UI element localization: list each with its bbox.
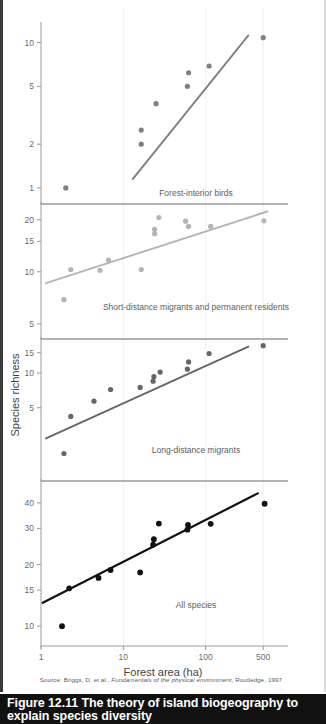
regression-line: [133, 35, 249, 179]
data-point: [151, 536, 157, 542]
data-point: [108, 567, 114, 573]
panel-all-species: 4030201510All species: [25, 479, 268, 648]
data-point: [186, 224, 191, 229]
species-area-scatter-chart: 10521Forest-interior birds2015105Short-d…: [0, 0, 326, 692]
y-tick-label: 30: [25, 523, 35, 533]
source-prefix: Source: Briggs, D. et al.,: [40, 676, 110, 683]
data-point: [151, 374, 156, 379]
data-point: [108, 387, 113, 392]
data-point: [139, 127, 144, 132]
panel-forest-interior-birds: 10521Forest-interior birds: [25, 22, 288, 204]
data-point: [185, 522, 191, 528]
y-tick-label: 2: [29, 139, 34, 149]
figure-caption-bar: Figure 12.11 The theory of island biogeo…: [0, 694, 326, 724]
data-point: [63, 185, 68, 190]
data-point: [138, 385, 143, 390]
y-tick-label: 10: [25, 621, 35, 631]
data-point: [156, 521, 162, 527]
y-tick-label: 40: [25, 498, 35, 508]
data-point: [185, 367, 190, 372]
panel-annotation-label: Forest-interior birds: [159, 188, 233, 198]
source-credit: Source: Briggs, D. et al., Fundamentals …: [0, 676, 322, 683]
y-tick-label: 10: [25, 38, 35, 48]
y-tick-label: 5: [29, 403, 34, 413]
data-point: [208, 521, 214, 527]
y-tick-label: 10: [25, 267, 35, 277]
data-point: [68, 414, 73, 419]
x-tick-label: 1: [39, 652, 44, 662]
data-point: [261, 343, 266, 348]
data-point: [91, 399, 96, 404]
y-tick-label: 5: [29, 81, 34, 91]
data-point: [186, 359, 191, 364]
y-tick-label: 1: [29, 183, 34, 193]
panel-short-distance-migrants-permanent-residents: 2015105Short-distance migrants and perma…: [25, 202, 290, 339]
x-tick-label: 100: [199, 652, 213, 662]
y-tick-label: 20: [25, 215, 35, 225]
data-point: [206, 63, 211, 68]
data-point: [262, 501, 268, 507]
y-tick-label: 15: [25, 585, 35, 595]
regression-line: [46, 212, 267, 284]
data-point: [61, 297, 66, 302]
data-point: [156, 215, 161, 220]
figure-container: 10521Forest-interior birds2015105Short-d…: [0, 0, 326, 724]
source-suffix: , Routledge, 1997: [232, 676, 283, 683]
data-point: [152, 227, 157, 232]
x-tick-label: 10: [119, 652, 129, 662]
data-point: [66, 585, 72, 591]
data-point: [158, 369, 163, 374]
y-tick-label: 15: [25, 348, 35, 358]
data-point: [68, 267, 73, 272]
data-point: [186, 70, 191, 75]
panel-annotation-label: All species: [176, 600, 217, 610]
source-work-title: Fundamentals of the physical environment: [111, 676, 231, 683]
figure-number: Figure 12.11: [7, 696, 78, 710]
data-point: [59, 623, 65, 629]
y-tick-label: 5: [29, 319, 34, 329]
panel-annotation-label: Short-distance migrants and permanent re…: [103, 302, 289, 312]
data-point: [183, 219, 188, 224]
data-point: [97, 268, 102, 273]
data-point: [150, 542, 156, 548]
y-tick-label: 10: [25, 368, 35, 378]
panel-long-distance-migrants: 15105Long-distance migrants: [25, 337, 288, 481]
regression-line: [43, 493, 258, 602]
data-point: [61, 451, 66, 456]
data-point: [206, 351, 211, 356]
data-point: [137, 570, 143, 576]
data-point: [261, 35, 266, 40]
data-point: [139, 142, 144, 147]
data-point: [106, 257, 111, 262]
y-tick-label: 20: [25, 560, 35, 570]
data-point: [208, 224, 213, 229]
regression-line: [46, 347, 248, 439]
data-point: [261, 218, 266, 223]
data-point: [139, 267, 144, 272]
x-tick-label: 500: [256, 652, 270, 662]
y-tick-label: 15: [25, 236, 35, 246]
plot-stack: 10521Forest-interior birds2015105Short-d…: [0, 0, 326, 692]
data-point: [96, 575, 102, 581]
data-point: [185, 84, 190, 89]
data-point: [153, 101, 158, 106]
y-axis-title: Species richness: [9, 353, 21, 437]
data-point: [151, 379, 156, 384]
panel-annotation-label: Long-distance migrants: [152, 445, 240, 455]
